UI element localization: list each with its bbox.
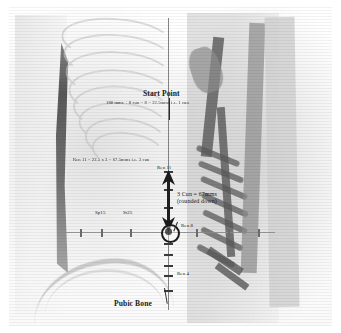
cun-note-line-2: (rounded down) xyxy=(177,198,217,205)
ren4-label: Ren 4 xyxy=(177,271,189,276)
axis-tick xyxy=(80,229,82,237)
cun-note: 3 Cun = 67mms (rounded down) xyxy=(177,191,217,206)
cun-note-line-1: 3 Cun = 67mms xyxy=(177,191,217,198)
axis-tick xyxy=(101,229,103,237)
axis-tick xyxy=(164,243,173,245)
st25-label: St25 xyxy=(123,210,132,215)
sp15-label: Sp15 xyxy=(95,210,105,215)
start-point-formula: 180 mms ÷ 8 cun = 8 = 22.5mms i.e. 1 cun xyxy=(106,100,189,105)
axis-tick xyxy=(196,229,198,237)
ren8-label: Ren 8 xyxy=(181,223,193,228)
umbilicus-marker-center xyxy=(165,228,172,235)
axis-tick xyxy=(258,229,260,237)
start-point-label: Start Point xyxy=(143,89,180,98)
ren11-label: Ren 11 xyxy=(157,165,171,170)
arrow-up-icon xyxy=(161,170,176,186)
axis-tick xyxy=(130,229,132,237)
axis-tick xyxy=(228,229,230,237)
axis-tick xyxy=(164,275,173,277)
axis-tick xyxy=(164,254,173,256)
axis-tick xyxy=(164,265,173,267)
ren11-formula: Ren 11 = 22.5 x 3 = 67.5mms i.e. 3 cun xyxy=(73,157,149,162)
diagram-canvas: Start Point 180 mms ÷ 8 cun = 8 = 22.5mm… xyxy=(0,0,341,333)
pubic-bone-label: Pubic Bone xyxy=(114,299,152,308)
